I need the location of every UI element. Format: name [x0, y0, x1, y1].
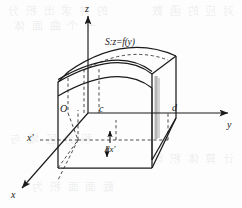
axis-label-z: z — [85, 4, 89, 14]
dx-label: dx' — [105, 145, 115, 154]
x-axis — [22, 113, 88, 188]
axis-label-y: y — [227, 120, 231, 130]
mark-label-d: d — [172, 103, 177, 113]
origin-label: O — [60, 104, 67, 114]
math-figure: 的 并 求 出 积 分 一 个 曲 面 体 对 应 的 函 数 积 分 区 域 … — [0, 0, 242, 208]
front-top-curve — [58, 77, 152, 96]
mark-label-c: c — [99, 104, 103, 114]
axis-label-x-prime: x' — [27, 133, 34, 143]
surface-label: S:z=f(y) — [105, 38, 135, 48]
axis-label-x: x — [11, 190, 15, 200]
hidden-edges — [40, 54, 168, 180]
dx-slab-shading — [155, 76, 161, 139]
figure-canvas — [0, 0, 242, 208]
